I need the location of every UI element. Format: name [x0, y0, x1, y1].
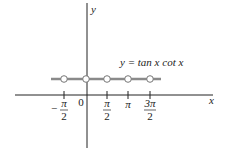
tick-label-3pi-over-2: 3π 2 [143, 97, 156, 122]
svg-text:π: π [125, 98, 131, 110]
function-label: y = tan x cot x [119, 56, 183, 68]
svg-text:2: 2 [104, 110, 110, 122]
svg-text:π: π [104, 97, 110, 109]
x-axis-label: x [208, 94, 214, 106]
svg-text:−: − [51, 102, 57, 114]
svg-text:π: π [61, 97, 67, 109]
svg-text:3π: 3π [143, 97, 156, 109]
svg-text:2: 2 [147, 110, 153, 122]
chart: − π 2 π 2 π 3π 2 0 x y y = tan x cot x [0, 0, 232, 153]
origin-label: 0 [78, 96, 84, 108]
hole-pi [125, 76, 132, 83]
hole-3pi-over-2 [147, 76, 154, 83]
tick-label-pi: π [125, 98, 131, 110]
tick-label-pi-over-2: π 2 [103, 97, 111, 122]
hole-zero [83, 76, 90, 83]
hole-pi-over-2 [104, 76, 111, 83]
y-axis-label: y [90, 3, 96, 15]
tick-label-neg-pi-over-2: − π 2 [51, 97, 68, 122]
hole-neg-pi-over-2 [61, 76, 68, 83]
svg-text:2: 2 [61, 110, 67, 122]
